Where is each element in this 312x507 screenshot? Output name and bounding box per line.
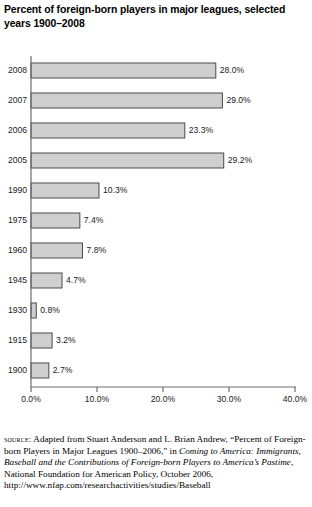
- y-tick-label-1915: 1915: [1, 336, 27, 345]
- bar-value-1930: 0.8%: [40, 306, 60, 315]
- bar-1900: [31, 363, 49, 378]
- bar-2006: [31, 123, 185, 138]
- bars-group: [31, 63, 224, 378]
- y-tick-label-1930: 1930: [1, 306, 27, 315]
- bar-2005: [31, 153, 224, 168]
- x-tick-label-20.0%: 20.0%: [143, 395, 183, 404]
- y-tick-label-1975: 1975: [1, 216, 27, 225]
- chart-title: Percent of foreign-born players in major…: [4, 3, 308, 31]
- y-tick-label-2008: 2008: [1, 66, 27, 75]
- bar-1975: [31, 213, 80, 228]
- x-tick-label-10.0%: 10.0%: [77, 395, 117, 404]
- y-tick-label-1960: 1960: [1, 246, 27, 255]
- x-tick-label-40.0%: 40.0%: [275, 395, 312, 404]
- bar-1915: [31, 333, 52, 348]
- chart-figure: Percent of foreign-born players in major…: [0, 0, 312, 507]
- bar-value-2007: 29.0%: [226, 96, 250, 105]
- y-tick-label-1990: 1990: [1, 186, 27, 195]
- y-tick-label-2006: 2006: [1, 126, 27, 135]
- x-ticks-group: [31, 387, 295, 392]
- bar-value-2006: 23.3%: [189, 126, 213, 135]
- bar-1990: [31, 183, 99, 198]
- x-tick-label-30.0%: 30.0%: [209, 395, 249, 404]
- source-label: source:: [4, 434, 31, 444]
- bar-value-1990: 10.3%: [103, 186, 127, 195]
- y-tick-label-1900: 1900: [1, 366, 27, 375]
- bar-2008: [31, 63, 216, 78]
- bar-value-2005: 29.2%: [228, 156, 252, 165]
- bar-value-1945: 4.7%: [66, 276, 86, 285]
- bar-value-1900: 2.7%: [53, 366, 73, 375]
- y-tick-label-2005: 2005: [1, 156, 27, 165]
- plot-area: 2008200720062005199019751960194519301915…: [0, 46, 312, 428]
- x-tick-label-0.0%: 0.0%: [11, 395, 51, 404]
- bar-value-1915: 3.2%: [56, 336, 76, 345]
- bar-value-2008: 28.0%: [220, 66, 244, 75]
- bar-2007: [31, 93, 222, 108]
- chart-svg: [0, 46, 312, 428]
- bar-value-1975: 7.4%: [84, 216, 104, 225]
- bar-1930: [31, 303, 36, 318]
- bar-value-1960: 7.8%: [86, 246, 106, 255]
- bar-1960: [31, 243, 82, 258]
- y-tick-label-2007: 2007: [1, 96, 27, 105]
- y-tick-label-1945: 1945: [1, 276, 27, 285]
- bar-1945: [31, 273, 62, 288]
- source-note: source: Adapted from Stuart Anderson and…: [4, 434, 310, 492]
